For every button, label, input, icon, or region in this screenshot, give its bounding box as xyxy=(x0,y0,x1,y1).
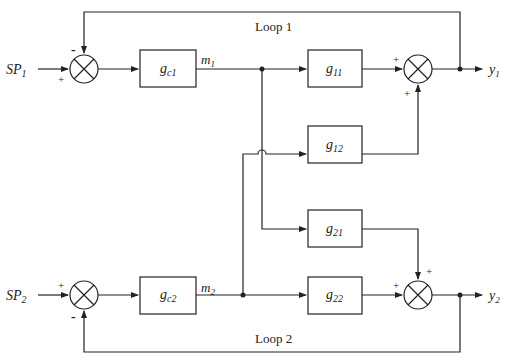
m1-to-g21-line xyxy=(262,69,306,229)
loop-1-label: Loop 1 xyxy=(255,19,292,34)
summer-3-plus-top: + xyxy=(393,53,399,65)
process-g22-block: g22 xyxy=(308,277,362,314)
summer-4-plus-left: + xyxy=(393,279,399,291)
summer-1-plus-sign: + xyxy=(58,73,64,85)
process-g11-block: g11 xyxy=(308,50,362,87)
controller-gc2-block: gc2 xyxy=(140,277,196,314)
y2-label: y2 xyxy=(487,288,500,305)
m2-to-g12-line xyxy=(243,150,306,295)
process-g12-block: g12 xyxy=(308,126,362,163)
loop-2-label: Loop 2 xyxy=(255,331,292,346)
sp2-label: SP2 xyxy=(6,288,27,305)
summing-junction-1 xyxy=(70,55,98,83)
m2-junction-dot xyxy=(241,293,246,298)
summer-4-plus-top: + xyxy=(426,265,432,277)
summing-junction-2 xyxy=(70,281,98,309)
controller-gc1-block: gc1 xyxy=(140,50,196,87)
summer-2-minus-sign: - xyxy=(71,309,76,324)
block-diagram: Loop 1 SP1 + - gc1 m1 g11 + + y1 g12 xyxy=(0,0,512,363)
summer-1-minus-sign: - xyxy=(71,42,76,57)
y1-label: y1 xyxy=(487,62,500,79)
g21-output-line xyxy=(362,229,418,279)
output-summing-junction-1 xyxy=(404,55,432,83)
summer-2-plus-sign: + xyxy=(58,279,64,291)
summer-3-plus-bottom: + xyxy=(404,87,410,99)
y1-junction-dot xyxy=(458,67,463,72)
process-g21-block: g21 xyxy=(308,210,362,247)
sp1-label: SP1 xyxy=(6,62,27,79)
output-summing-junction-2 xyxy=(404,281,432,309)
m1-label: m1 xyxy=(201,52,215,69)
